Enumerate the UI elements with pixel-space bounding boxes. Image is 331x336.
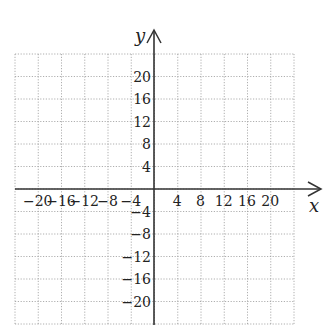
x-tick-label: 8 bbox=[196, 193, 205, 209]
y-tick-label: −16 bbox=[121, 271, 151, 287]
y-tick-label: −12 bbox=[121, 249, 151, 265]
y-tick-label: −20 bbox=[121, 294, 151, 310]
x-tick-labels: −20−16−12−8−448121620 bbox=[23, 193, 279, 209]
x-tick-label: 16 bbox=[238, 193, 256, 209]
y-tick-label: 20 bbox=[133, 69, 151, 85]
x-tick-label: −8 bbox=[97, 193, 118, 209]
y-tick-label: −8 bbox=[130, 226, 151, 242]
x-tick-label: 12 bbox=[215, 193, 233, 209]
x-axis-label: x bbox=[309, 195, 319, 216]
x-tick-label: 4 bbox=[173, 193, 182, 209]
y-tick-label: 16 bbox=[133, 91, 151, 107]
coordinate-plane: x y −20−16−12−8−448121620 20161284−4−8−1… bbox=[0, 0, 331, 336]
x-tick-label: −12 bbox=[69, 193, 99, 209]
y-tick-label: −4 bbox=[130, 204, 151, 220]
y-axis-label: y bbox=[134, 25, 146, 46]
y-tick-label: 12 bbox=[133, 114, 151, 130]
y-tick-label: 4 bbox=[142, 159, 151, 175]
y-tick-label: 8 bbox=[142, 136, 151, 152]
x-tick-label: 20 bbox=[261, 193, 279, 209]
